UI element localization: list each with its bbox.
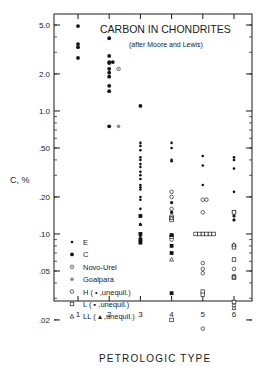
legend-item-novourel: Novo-Urel [70,263,117,272]
series-e [139,142,235,241]
data-points [76,24,236,330]
chart-title: CARBON IN CHONDRITES [100,23,231,35]
y-tick-label: .02 [39,316,51,325]
y-tick-label: .20 [39,193,51,202]
y-tick-label: 1.0 [39,107,51,116]
series-novourel [117,67,121,71]
x-tick-label: 3 [138,310,143,319]
x-tick-label: 4 [169,310,174,319]
legend-item-e: E [71,238,88,247]
legend-item-h: H ( • ,unequil.) [70,288,131,297]
y-tick-label: 2.0 [39,70,51,79]
svg-text:Goalpara: Goalpara [83,275,115,284]
y-tick-label: .05 [39,267,51,276]
series-ll-unequil [138,222,142,226]
legend-item-c: C [70,250,89,259]
svg-text:H ( • ,unequil.): H ( • ,unequil.) [83,288,131,297]
y-tick-label: 5.0 [39,21,51,30]
x-axis-label: PETROLOGIC TYPE [99,353,211,364]
x-tick-label: 6 [232,310,237,319]
x-tick-label: 5 [201,310,206,319]
x-tick-label: 1 [76,310,81,319]
svg-text:LL ( ▴ ,unequil.): LL ( ▴ ,unequil.) [83,312,135,321]
svg-text:Novo-Urel: Novo-Urel [83,263,117,272]
chart-subtitle: (after Moore and Lewis) [129,41,203,49]
series-l [170,211,236,322]
series-c [76,24,142,128]
legend: ECNovo-UrelGoalparaH ( • ,unequil.)L ( ▪… [70,238,135,321]
svg-text:E: E [83,238,88,247]
svg-text:C: C [83,250,89,259]
y-axis-label: C, % [10,175,30,185]
chart: 5.02.01.0.50.20.10.05.02 123456 ECNovo-U… [0,0,270,371]
y-tick-label: .10 [39,230,51,239]
series-goalpara [117,125,121,129]
y-tick-label: .50 [39,144,51,153]
svg-text:L ( ▪ ,unequil.): L ( ▪ ,unequil.) [83,300,130,309]
legend-item-goalpara: Goalpara [70,275,114,284]
series-l-unequil [139,214,174,295]
x-axis: 123456 [76,14,237,319]
